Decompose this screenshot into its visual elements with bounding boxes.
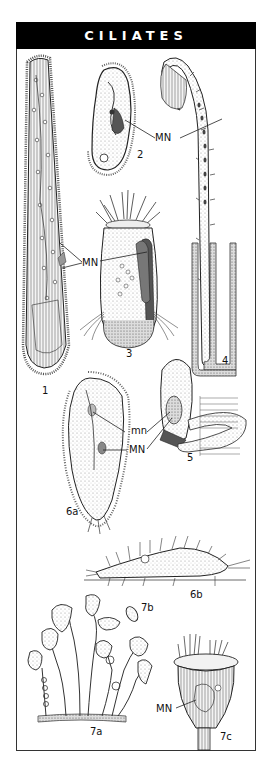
organism-6b-drawing [84,536,250,586]
figure-label-5: 5 [187,453,193,463]
organism-2-drawing [88,63,135,175]
organism-7a-drawing [28,595,152,722]
organism-1-drawing [23,56,69,374]
figure-label-6b: 6b [190,590,203,600]
label-mn-fig7c: MN [156,704,172,714]
figure-label-7a: 7a [90,727,103,737]
figure-label-1: 1 [42,386,48,396]
illustration-canvas [0,0,273,781]
label-mn-small-fig6a: mn [131,426,147,436]
figure-label-6a: 6a [66,507,79,517]
organism-7b-drawing [98,605,140,630]
figure-label-4: 4 [222,356,228,366]
organism-4-drawing [161,58,236,376]
figure-label-2: 2 [137,150,143,160]
organism-3-drawing [80,190,178,348]
figure-label-7b: 7b [141,603,154,613]
figure-label-3: 3 [126,349,132,359]
label-mn-fig2-fig4: MN [155,133,171,143]
label-mn-large-fig6a: MN [129,445,145,455]
figure-label-7c: 7c [220,732,232,742]
label-mn-fig1-fig3: MN [82,258,98,268]
